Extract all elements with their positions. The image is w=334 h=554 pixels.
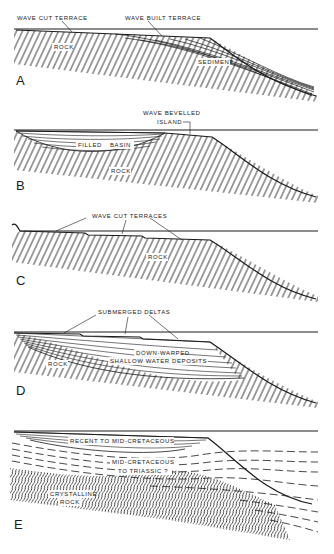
label-island: ISLAND bbox=[157, 119, 182, 125]
leader bbox=[150, 218, 182, 240]
leader bbox=[64, 315, 96, 333]
label-shallow-water-deposits: SHALLOW WATER DEPOSITS bbox=[110, 358, 207, 364]
label-crystalline: CRYSTALLINE bbox=[50, 491, 97, 497]
label-to-triassic: TO TRIASSIC ? bbox=[118, 468, 168, 474]
leader bbox=[56, 218, 86, 231]
leader bbox=[122, 220, 126, 234]
label-recent-to-mid-cretaceous: RECENT TO MID-CRETACEOUS bbox=[70, 438, 175, 444]
label-basin: BASIN bbox=[110, 142, 131, 148]
label-wave-cut-terrace: WAVE CUT TERRACE bbox=[17, 15, 88, 21]
label-wave-built-terrace: WAVE BUILT TERRACE bbox=[125, 15, 201, 21]
leader bbox=[149, 315, 178, 339]
panel-a: WAVE CUT TERRACE WAVE BUILT TERRACE ROCK… bbox=[14, 15, 318, 102]
label-rock: ROCK bbox=[48, 361, 68, 367]
label-filled: FILLED bbox=[78, 142, 102, 148]
label-wave-bevelled: WAVE BEVELLED bbox=[143, 110, 201, 116]
panel-letter: B bbox=[16, 178, 25, 193]
label-down-warped: DOWN-WARPED bbox=[136, 350, 190, 356]
panel-letter: E bbox=[14, 517, 23, 532]
label-sediment: SEDIMENT bbox=[198, 59, 234, 65]
leader bbox=[183, 122, 190, 134]
leader bbox=[125, 317, 128, 334]
continental-shelf-diagram: WAVE CUT TERRACE WAVE BUILT TERRACE ROCK… bbox=[0, 0, 334, 554]
crystalline-rock-pattern bbox=[10, 468, 290, 540]
label-crystalline-rock: ROCK bbox=[60, 499, 80, 505]
label-rock: ROCK bbox=[54, 44, 74, 50]
label-rock: ROCK bbox=[111, 168, 131, 174]
panel-letter: A bbox=[16, 73, 25, 88]
panel-d: SUBMERGED DELTAS DOWN-WARPED SHALLOW WAT… bbox=[14, 309, 318, 408]
label-rock: ROCK bbox=[148, 254, 168, 260]
leader bbox=[62, 21, 72, 32]
panel-letter: C bbox=[16, 273, 25, 288]
panel-b: WAVE BEVELLED ISLAND FILLED BASIN ROCK B bbox=[14, 110, 318, 203]
panel-letter: D bbox=[16, 383, 25, 398]
label-mid-cretaceous: MID-CRETACEOUS bbox=[112, 459, 175, 465]
label-wave-cut-terraces: WAVE CUT TERRACES bbox=[92, 213, 167, 219]
rock-hatch bbox=[12, 231, 318, 302]
panel-c: WAVE CUT TERRACES ROCK C bbox=[12, 213, 318, 302]
panel-e: RECENT TO MID-CRETACEOUS MID-CRETACEOUS … bbox=[10, 431, 318, 540]
label-submerged-deltas: SUBMERGED DELTAS bbox=[98, 309, 170, 315]
